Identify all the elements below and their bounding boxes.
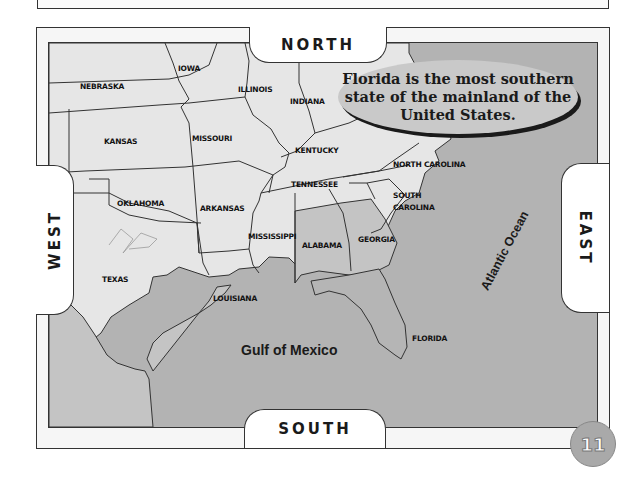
page-number-badge: 11 bbox=[570, 421, 616, 467]
state-label-oklahoma: OKLAHOMA bbox=[117, 199, 164, 208]
state-label-illinois: ILLINOIS bbox=[238, 85, 272, 94]
callout-text: Florida is the most southern state of th… bbox=[338, 70, 578, 124]
state-label-georgia: GEORGIA bbox=[358, 235, 395, 244]
north-label: NORTH bbox=[281, 36, 355, 54]
state-label-texas: TEXAS bbox=[102, 275, 128, 284]
state-label-indiana: INDIANA bbox=[290, 97, 325, 106]
state-label-arkansas: ARKANSAS bbox=[200, 204, 244, 213]
state-label-nebraska: NEBRASKA bbox=[80, 82, 124, 91]
state-label-louisiana: LOUISIANA bbox=[213, 294, 257, 303]
east-label: EAST bbox=[577, 211, 595, 266]
direction-west-tab: WEST bbox=[36, 165, 74, 315]
state-label-florida: FLORIDA bbox=[412, 334, 447, 343]
state-label-missouri: MISSOURI bbox=[192, 134, 232, 143]
state-label-kansas: KANSAS bbox=[104, 137, 137, 146]
state-label-iowa: IOWA bbox=[178, 64, 200, 73]
state-label-mississippi: MISSISSIPPI bbox=[248, 232, 296, 241]
state-label-alabama: ALABAMA bbox=[302, 241, 342, 250]
gulf-of-mexico-label: Gulf of Mexico bbox=[241, 342, 337, 358]
direction-north-tab: NORTH bbox=[249, 27, 387, 63]
florida-callout-bubble: Florida is the most southern state of th… bbox=[338, 60, 578, 134]
direction-east-tab: EAST bbox=[561, 163, 609, 313]
south-label: SOUTH bbox=[278, 420, 352, 438]
page-number: 11 bbox=[580, 434, 605, 455]
state-label-south-carolina: SOUTH CAROLINA bbox=[393, 190, 443, 214]
state-label-tennessee: TENNESSEE bbox=[291, 180, 338, 189]
direction-south-tab: SOUTH bbox=[244, 409, 386, 448]
top-text-box bbox=[37, 0, 609, 9]
state-label-north-carolina: NORTH CAROLINA bbox=[393, 160, 465, 169]
west-label: WEST bbox=[46, 210, 64, 270]
state-label-kentucky: KENTUCKY bbox=[295, 146, 339, 155]
